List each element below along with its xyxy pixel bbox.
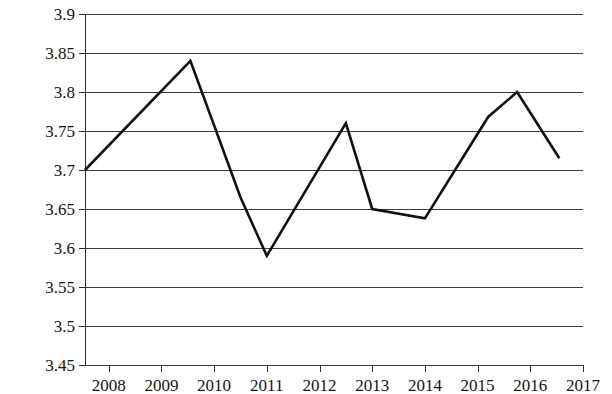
x-tick-label-7: 2015 bbox=[461, 376, 495, 394]
y-tick-label-7: 3.55 bbox=[45, 278, 75, 297]
x-tick-label-6: 2014 bbox=[408, 376, 443, 394]
y-tick-label-0: 3.9 bbox=[54, 5, 75, 24]
x-tick-label-4: 2012 bbox=[303, 376, 337, 394]
x-tick-label-3: 2011 bbox=[250, 376, 283, 394]
data-series bbox=[85, 61, 559, 256]
x-tick-label-5: 2013 bbox=[355, 376, 389, 394]
y-tick-label-6: 3.6 bbox=[54, 239, 75, 258]
x-tick-label-1: 2009 bbox=[144, 376, 178, 394]
y-axis-tick-labels: 3.93.853.83.753.73.653.63.553.53.45 bbox=[45, 5, 75, 375]
data-line-series-1 bbox=[85, 61, 559, 256]
y-tick-label-1: 3.85 bbox=[45, 44, 75, 63]
x-tick-label-0: 2008 bbox=[92, 376, 126, 394]
x-tick-label-2: 2010 bbox=[197, 376, 231, 394]
y-tick-label-3: 3.75 bbox=[45, 122, 75, 141]
x-axis-tick-labels: 2008200920102011201220132014201520162017 bbox=[92, 376, 601, 394]
chart-canvas: 3.93.853.83.753.73.653.63.553.53.45 2008… bbox=[0, 0, 612, 394]
tickmarks bbox=[79, 15, 584, 373]
y-tick-label-2: 3.8 bbox=[54, 83, 75, 102]
y-tick-label-4: 3.7 bbox=[54, 161, 76, 180]
y-tick-label-8: 3.5 bbox=[54, 317, 75, 336]
gridlines bbox=[85, 15, 583, 366]
y-tick-label-5: 3.65 bbox=[45, 200, 75, 219]
x-tick-label-9: 2017 bbox=[566, 376, 601, 394]
x-tick-label-8: 2016 bbox=[513, 376, 547, 394]
line-chart: 3.93.853.83.753.73.653.63.553.53.45 2008… bbox=[0, 0, 612, 394]
y-tick-label-9: 3.45 bbox=[45, 356, 75, 375]
